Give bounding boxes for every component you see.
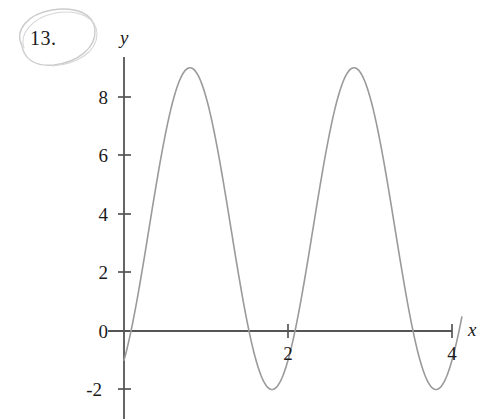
y-tick-label-2: 2: [82, 263, 108, 282]
y-tick-label-0: 0: [82, 322, 108, 341]
y-tick-label-neg2: -2: [76, 380, 102, 399]
y-tick-label-4: 4: [82, 205, 108, 224]
x-axis-label: x: [468, 320, 476, 339]
x-tick-label-2: 2: [278, 344, 298, 363]
y-axis-label: y: [120, 28, 128, 47]
problem-number-label: 13.: [30, 28, 57, 48]
graph-plot: [0, 0, 499, 419]
figure-container: 13. y x 8 6 4 2 0 -2 2 4: [0, 0, 499, 419]
curve-sinusoid: [124, 68, 462, 390]
x-tick-label-4: 4: [442, 344, 462, 363]
y-tick-label-8: 8: [82, 88, 108, 107]
y-tick-label-6: 6: [82, 146, 108, 165]
